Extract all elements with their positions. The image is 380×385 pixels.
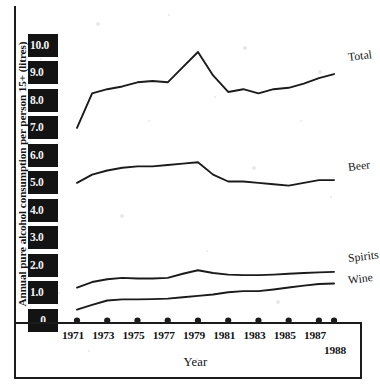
scan-speckle — [58, 292, 60, 294]
x-axis-title: Year — [0, 355, 375, 370]
x-axis-line — [14, 322, 362, 324]
series-line-spirits — [77, 270, 334, 287]
series-line-beer — [77, 162, 334, 185]
scan-speckle — [120, 214, 124, 218]
x-tick-1983: 1983 — [243, 329, 265, 341]
scan-speckle — [318, 70, 322, 74]
x-tick-1971: 1971 — [62, 329, 84, 341]
scan-speckle — [96, 22, 100, 26]
x-tick-1987: 1987 — [304, 329, 326, 341]
x-tick-1981: 1981 — [213, 329, 235, 341]
scan-speckle — [168, 14, 170, 16]
x-tick-1975: 1975 — [122, 329, 144, 341]
scan-speckle — [276, 300, 280, 304]
series-line-wine — [77, 283, 334, 309]
x-axis-title-text: Year — [183, 355, 207, 369]
scan-speckle — [330, 196, 332, 198]
scan-speckle — [206, 250, 208, 252]
scan-speckle — [252, 166, 256, 170]
scan-speckle — [40, 58, 42, 60]
scan-speckle — [214, 96, 216, 98]
scan-speckle — [88, 350, 90, 352]
scan-speckle — [300, 120, 302, 122]
scan-speckle — [148, 120, 150, 122]
series-line-total — [77, 52, 334, 128]
scan-speckle — [243, 46, 247, 50]
x-tick-1973: 1973 — [92, 329, 114, 341]
x-tick-1979: 1979 — [183, 329, 205, 341]
scan-speckle — [196, 358, 198, 360]
x-tick-1977: 1977 — [153, 329, 175, 341]
x-tick-1985: 1985 — [274, 329, 296, 341]
